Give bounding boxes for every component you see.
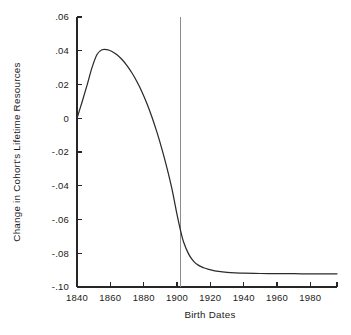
x-tick-label-group: 18401860188019001920194019601980 xyxy=(66,292,321,303)
y-tick-label: .06 xyxy=(55,11,69,22)
x-tick-label: 1860 xyxy=(99,292,121,303)
y-tick-label: -.10 xyxy=(52,281,69,292)
y-tick-label: -.08 xyxy=(52,248,69,259)
y-tick-label: -.02 xyxy=(52,146,69,157)
x-tick-label: 1880 xyxy=(133,292,155,303)
x-tick-label: 1900 xyxy=(166,292,188,303)
data-curve xyxy=(77,49,337,274)
x-tick-label: 1980 xyxy=(299,292,321,303)
y-tick-label: .04 xyxy=(55,45,69,56)
x-tick-label: 1920 xyxy=(199,292,221,303)
x-tick-label: 1940 xyxy=(233,292,255,303)
x-axis-title: Birth Dates xyxy=(184,309,235,320)
y-tick-label: -.06 xyxy=(52,214,69,225)
y-tick-label: -.04 xyxy=(52,180,69,191)
y-tick-label: 0 xyxy=(64,113,69,124)
x-tick-label: 1840 xyxy=(66,292,88,303)
chart-figure: .06.04.020-.02-.04-.06-.08-.10 184018601… xyxy=(0,0,351,335)
y-axis-title: Change in Cohort's Lifetime Resources xyxy=(11,62,22,241)
x-tick-label: 1960 xyxy=(266,292,288,303)
x-tick-group xyxy=(77,282,310,287)
y-tick-label: .02 xyxy=(55,79,69,90)
y-tick-group xyxy=(77,17,82,287)
y-tick-label-group: .06.04.020-.02-.04-.06-.08-.10 xyxy=(52,11,69,292)
line-chart: .06.04.020-.02-.04-.06-.08-.10 184018601… xyxy=(0,0,351,335)
